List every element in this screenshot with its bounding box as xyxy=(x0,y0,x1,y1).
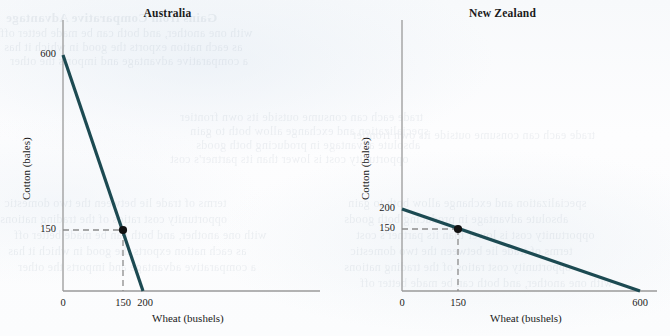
point-marker-newzealand xyxy=(454,225,462,233)
ppf-line-australia xyxy=(63,55,143,291)
chart-australia: Australia 600 150 0 150 200 Wheat (bushe… xyxy=(0,0,335,336)
x-tick-label-150: 150 xyxy=(441,297,475,308)
x-tick-label-600: 600 xyxy=(623,297,657,308)
plot-area-newzealand xyxy=(335,0,670,336)
x-tick-label-0: 0 xyxy=(49,297,77,308)
y-tick-label-150: 150 xyxy=(18,223,56,234)
x-axis-title-newzealand: Wheat (bushels) xyxy=(490,312,562,324)
point-marker-australia xyxy=(119,226,127,234)
y-tick-label-200: 200 xyxy=(357,202,395,213)
x-tick-label-200: 200 xyxy=(128,297,162,308)
ppf-line-newzealand xyxy=(402,209,640,291)
chart-newzealand: New Zealand 200 150 0 150 600 Wheat (bus… xyxy=(335,0,670,336)
y-tick-label-600: 600 xyxy=(18,48,56,59)
y-axis-title-australia: Cotton (bales) xyxy=(20,137,32,200)
y-tick-label-150: 150 xyxy=(357,222,395,233)
x-tick-label-0: 0 xyxy=(388,297,416,308)
y-axis-title-newzealand: Cotton (bales) xyxy=(359,137,371,200)
x-axis-title-australia: Wheat (bushels) xyxy=(152,312,224,324)
